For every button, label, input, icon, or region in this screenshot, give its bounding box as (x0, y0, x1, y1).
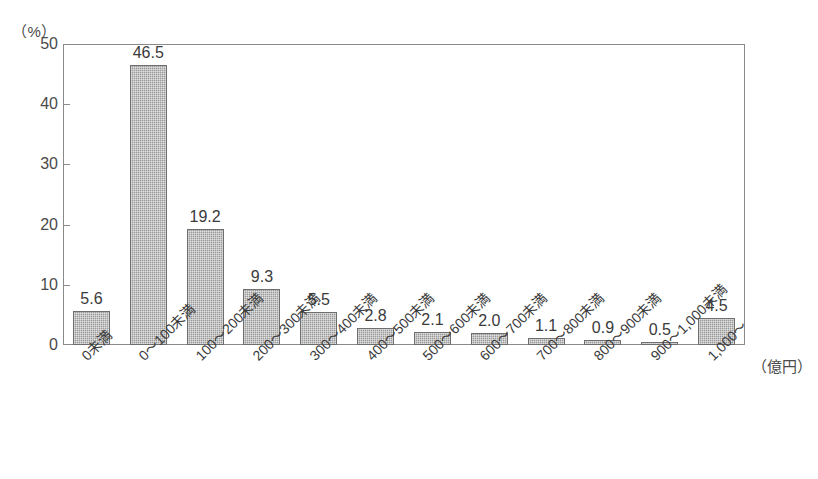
bar-value-label: 5.6 (80, 291, 102, 307)
y-axis-tick-label: 0 (18, 337, 58, 353)
bar-value-label: 46.5 (133, 45, 164, 61)
y-axis-tick-label: 40 (18, 96, 58, 112)
bar-group: 46.5 (130, 44, 167, 345)
x-axis: 0未満0～100未満100～200未満200～300未満300～400未満400… (63, 345, 745, 479)
bar-group: 19.2 (187, 44, 224, 345)
bar-value-label: 9.3 (251, 269, 273, 285)
bar-value-label: 19.2 (190, 209, 221, 225)
x-axis-unit-label: （億円） (752, 355, 812, 376)
y-axis-tick-label: 10 (18, 277, 58, 293)
y-axis-tick-label: 50 (18, 36, 58, 52)
y-axis-tick-label: 20 (18, 217, 58, 233)
bar-group: 5.6 (73, 44, 110, 345)
bar-value-label: 2.0 (478, 313, 500, 329)
bar-chart: （%） （億円） 01020304050 5.646.519.29.35.52.… (0, 0, 818, 479)
bar (130, 65, 167, 345)
bar-value-label: 2.1 (421, 312, 443, 328)
y-axis-tick-label: 30 (18, 156, 58, 172)
y-axis: 01020304050 (10, 44, 58, 345)
